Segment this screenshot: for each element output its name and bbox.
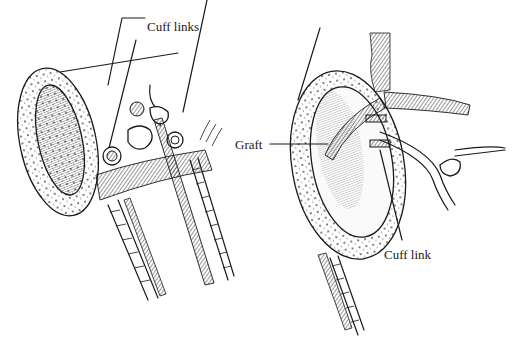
diagram-canvas: Cuff links Graft Cuff link	[0, 0, 523, 346]
label-graft: Graft	[235, 138, 262, 151]
cuff-links-leader	[108, 18, 145, 85]
label-cuff-links: Cuff links	[147, 20, 199, 33]
left-panel-vessel	[5, 0, 234, 300]
illustration	[0, 0, 523, 346]
right-panel-vessel	[276, 28, 505, 335]
label-cuff-link: Cuff link	[384, 248, 431, 261]
